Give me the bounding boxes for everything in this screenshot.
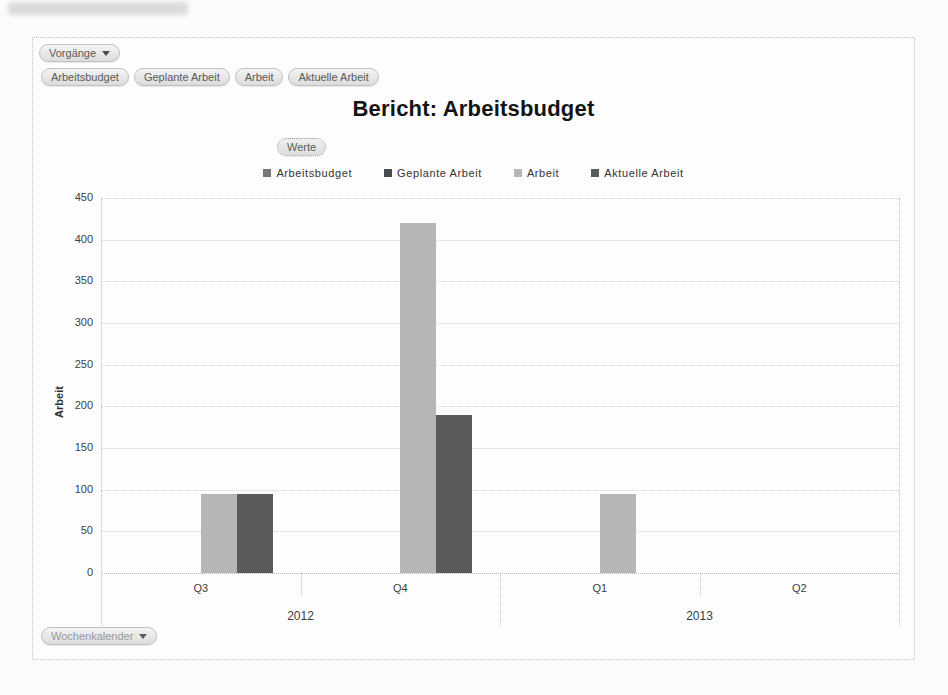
bar-aktuelle-arbeit-q3 — [237, 494, 273, 573]
field-filter-row: Arbeitsbudget Geplante Arbeit Arbeit Akt… — [41, 68, 379, 86]
legend-swatch-icon — [263, 169, 271, 177]
plot-area: Arbeit 050100150200250300350400450Q3Q4Q1… — [101, 198, 899, 573]
chart-title: Bericht: Arbeitsbudget — [33, 96, 914, 122]
wochenkalender-dropdown-label: Wochenkalender — [51, 630, 133, 642]
x-tick-label: Q3 — [171, 582, 231, 594]
wochenkalender-dropdown-button[interactable]: Wochenkalender — [41, 627, 157, 645]
x-tick-label: Q4 — [370, 582, 430, 594]
legend-item-label: Aktuelle Arbeit — [604, 167, 683, 179]
legend-item-3: Arbeit — [514, 167, 559, 179]
x-tick-label: Q2 — [769, 582, 829, 594]
vorgaenge-dropdown-button[interactable]: Vorgänge — [39, 44, 120, 62]
y-tick-label: 250 — [57, 358, 93, 370]
y-tick-label: 300 — [57, 316, 93, 328]
x-group-label: 2013 — [660, 609, 740, 623]
quarter-boundary-tick — [700, 573, 701, 595]
legend-item-2: Geplante Arbeit — [384, 167, 482, 179]
legend-item-label: Arbeit — [527, 167, 559, 179]
y-tick-label: 0 — [57, 566, 93, 578]
gridline — [101, 365, 899, 366]
chart-legend: ArbeitsbudgetGeplante ArbeitArbeitAktuel… — [33, 167, 914, 179]
y-tick-label: 350 — [57, 274, 93, 286]
legend-swatch-icon — [591, 169, 599, 177]
legend-swatch-icon — [514, 169, 522, 177]
gridline — [101, 198, 899, 199]
gridline — [101, 323, 899, 324]
filter-pill-arbeitsbudget[interactable]: Arbeitsbudget — [41, 68, 129, 86]
vorgaenge-dropdown-label: Vorgänge — [49, 47, 96, 59]
filter-pill-geplante-arbeit[interactable]: Geplante Arbeit — [134, 68, 230, 86]
x-group-label: 2012 — [261, 609, 341, 623]
legend-item-1: Arbeitsbudget — [263, 167, 352, 179]
bar-arbeit-q4 — [400, 223, 436, 573]
y-tick-label: 50 — [57, 524, 93, 536]
gridline — [101, 240, 899, 241]
legend-item-label: Geplante Arbeit — [397, 167, 482, 179]
filter-pill-arbeit[interactable]: Arbeit — [235, 68, 284, 86]
gridline — [101, 406, 899, 407]
filter-pill-aktuelle-arbeit[interactable]: Aktuelle Arbeit — [288, 68, 378, 86]
werte-button[interactable]: Werte — [277, 138, 326, 156]
gridline — [101, 281, 899, 282]
legend-item-label: Arbeitsbudget — [276, 167, 352, 179]
y-tick-label: 200 — [57, 399, 93, 411]
chevron-down-icon — [139, 634, 147, 639]
legend-swatch-icon — [384, 169, 392, 177]
plot-right-border — [899, 198, 900, 626]
y-tick-label: 150 — [57, 441, 93, 453]
y-axis-line — [101, 198, 102, 626]
legend-item-4: Aktuelle Arbeit — [591, 167, 683, 179]
gridline — [101, 448, 899, 449]
werte-button-label: Werte — [287, 141, 316, 153]
blurred-window-text — [8, 2, 188, 15]
chevron-down-icon — [102, 51, 110, 56]
bar-aktuelle-arbeit-q4 — [436, 415, 472, 573]
gridline — [101, 490, 899, 491]
bar-arbeit-q3 — [201, 494, 237, 573]
y-tick-label: 400 — [57, 233, 93, 245]
report-canvas: Vorgänge Arbeitsbudget Geplante Arbeit A… — [32, 37, 915, 660]
quarter-boundary-tick — [301, 573, 302, 595]
year-boundary-tick — [500, 573, 501, 626]
y-tick-label: 450 — [57, 191, 93, 203]
x-tick-label: Q1 — [570, 582, 630, 594]
bar-arbeit-q1 — [600, 494, 636, 573]
y-tick-label: 100 — [57, 483, 93, 495]
